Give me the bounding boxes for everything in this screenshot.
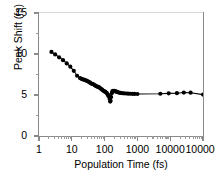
x-tick-minor: [91, 136, 92, 139]
x-tick-minor: [185, 136, 186, 139]
y-tick-label: 15: [5, 6, 27, 18]
x-tick-minor: [103, 136, 104, 139]
data-point: [175, 91, 179, 95]
data-point: [61, 58, 65, 62]
x-tick-minor: [130, 136, 131, 139]
x-tick: [104, 136, 105, 141]
x-tick-minor: [48, 136, 49, 139]
x-tick-label: 100000: [181, 143, 215, 155]
x-tick-minor: [124, 136, 125, 139]
x-axis-ticks: [39, 136, 203, 142]
x-tick: [170, 136, 171, 141]
x-tick-minor: [94, 136, 95, 139]
x-tick: [202, 136, 203, 141]
x-tick-minor: [61, 136, 62, 139]
data-point: [53, 52, 57, 56]
data-point: [68, 65, 72, 69]
data-point: [49, 50, 53, 54]
data-point: [65, 61, 69, 65]
x-tick-minor: [147, 136, 148, 139]
x-tick-minor: [114, 136, 115, 139]
x-tick-minor: [189, 136, 190, 139]
data-point: [182, 90, 186, 94]
x-tick: [71, 136, 72, 141]
x-axis-label: Population Time (fs): [39, 158, 203, 170]
y-tick-label: 5: [5, 88, 27, 100]
x-tick-minor: [58, 136, 59, 139]
x-tick-minor: [120, 136, 121, 139]
data-point: [167, 91, 171, 95]
x-tick-minor: [81, 136, 82, 139]
x-tick-minor: [54, 136, 55, 139]
x-tick-minor: [162, 136, 163, 139]
x-tick-minor: [127, 136, 128, 139]
y-tick-label: 10: [5, 47, 27, 59]
data-point: [109, 95, 113, 99]
x-tick-minor: [193, 136, 194, 139]
x-tick-minor: [201, 136, 202, 139]
x-tick-minor: [135, 136, 136, 139]
data-point: [201, 92, 203, 96]
x-tick-minor: [180, 136, 181, 139]
x-tick-minor: [152, 136, 153, 139]
x-tick-minor: [195, 136, 196, 139]
data-point: [135, 92, 139, 96]
data-point: [57, 55, 61, 59]
x-tick-minor: [157, 136, 158, 139]
x-tick-minor: [87, 136, 88, 139]
chart-figure: Peak Shift (fs) Population Time (fs) 051…: [0, 0, 215, 174]
x-tick-minor: [64, 136, 65, 139]
x-tick: [137, 136, 138, 141]
y-tick-label: 0: [5, 129, 27, 141]
data-point: [158, 92, 162, 96]
plot-area: [39, 13, 203, 136]
x-tick-minor: [97, 136, 98, 139]
x-tick-minor: [168, 136, 169, 139]
data-point: [72, 69, 76, 73]
x-tick-minor: [70, 136, 71, 139]
x-tick-minor: [160, 136, 161, 139]
data-point: [189, 91, 193, 95]
data-series-peak-shift: [39, 13, 203, 136]
data-point: [108, 99, 112, 103]
x-tick: [38, 136, 39, 141]
